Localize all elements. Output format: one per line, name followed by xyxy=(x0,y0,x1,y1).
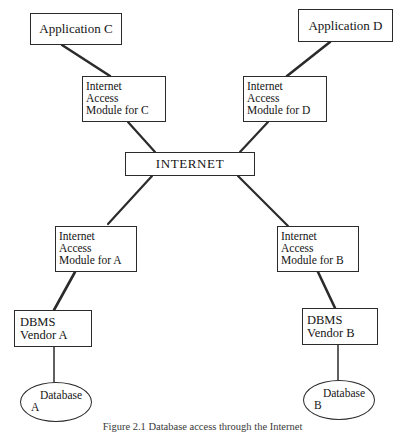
node-dbms-vendor-a: DBMS Vendor A xyxy=(14,310,92,347)
figure-caption: Figure 2.1 Database access through the I… xyxy=(0,421,405,432)
connector-lines xyxy=(0,0,405,433)
node-iam-d-line-3: Module for D xyxy=(247,105,310,117)
node-internet-access-module-a: Internet Access Module for A xyxy=(55,226,137,272)
edge-iam-a-to-dbms-a xyxy=(54,272,75,310)
edge-iam-c-to-internet xyxy=(128,122,155,152)
edge-application-d-to-iam-d xyxy=(287,42,330,76)
node-dbms-b-line-2: Vendor B xyxy=(307,327,355,340)
node-application-d-label: Application D xyxy=(308,19,382,32)
node-application-d: Application D xyxy=(298,9,393,42)
node-dbms-a-line-1: DBMS xyxy=(20,316,55,329)
node-iam-b-line-3: Module for B xyxy=(281,255,344,267)
node-internet-access-module-c: Internet Access Module for C xyxy=(82,76,166,122)
node-application-c-label: Application C xyxy=(39,22,112,35)
edge-internet-to-iam-a xyxy=(108,176,152,224)
node-dbms-a-line-2: Vendor A xyxy=(20,329,68,342)
edge-application-c-to-iam-c xyxy=(62,45,110,76)
node-internet: INTERNET xyxy=(125,152,255,176)
node-iam-a-line-3: Module for A xyxy=(59,255,122,267)
figure-database-access-through-internet: Application C Application D Internet Acc… xyxy=(0,0,405,433)
node-internet-label: INTERNET xyxy=(156,157,224,170)
node-database-a: Database A xyxy=(20,382,92,422)
edge-iam-d-to-internet xyxy=(240,122,268,152)
node-database-b-line-1: Database xyxy=(323,388,365,400)
node-database-b-line-2: B xyxy=(314,400,322,412)
node-database-b: Database B xyxy=(303,380,375,420)
node-application-c: Application C xyxy=(30,13,122,45)
node-iam-c-line-3: Module for C xyxy=(86,105,149,117)
node-database-a-line-1: Database xyxy=(40,390,82,402)
edge-internet-to-iam-b xyxy=(238,176,288,226)
edge-iam-b-to-dbms-b xyxy=(318,272,335,308)
node-internet-access-module-d: Internet Access Module for D xyxy=(243,76,327,122)
node-database-a-line-2: A xyxy=(31,402,39,414)
node-dbms-b-line-1: DBMS xyxy=(307,314,342,327)
node-dbms-vendor-b: DBMS Vendor B xyxy=(302,308,378,345)
node-internet-access-module-b: Internet Access Module for B xyxy=(277,226,359,272)
